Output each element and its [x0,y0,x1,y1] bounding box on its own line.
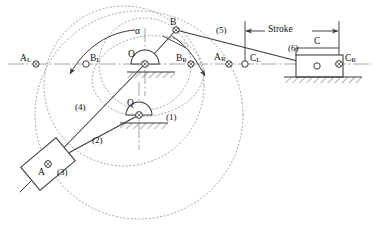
label-c-left: CL [250,54,261,64]
label-link-6: (6) [288,44,299,53]
label-a-right: AR [214,53,226,63]
label-c-center: C [314,37,320,47]
motion-arc-left [70,30,135,74]
label-link-3: (3) [57,168,68,177]
label-stroke: Stroke [268,25,293,35]
label-b-left: BL [90,54,101,64]
label-a-slider: A [38,168,45,178]
label-alpha: α [135,27,140,37]
label-link-2: (2) [92,136,103,145]
label-q-pivot: Q [127,99,134,109]
mechanism-diagram: AL BL O α B BR AR CL CR C Q A Stroke (1)… [0,0,378,229]
label-b-top: B [170,18,176,28]
label-c-right: CR [345,54,356,64]
joint-c-left [242,61,248,67]
label-a-left: AL [20,54,31,64]
vertical-centerlines [139,28,145,150]
label-link-4: (4) [75,103,86,112]
label-o-pivot: O [128,50,135,60]
label-b-right: BR [176,54,187,64]
label-link-1: (1) [166,113,177,122]
joint-c-pin [314,63,320,69]
joint-b-left [83,61,89,67]
label-link-5: (5) [216,26,227,35]
diagram-canvas [0,0,378,229]
